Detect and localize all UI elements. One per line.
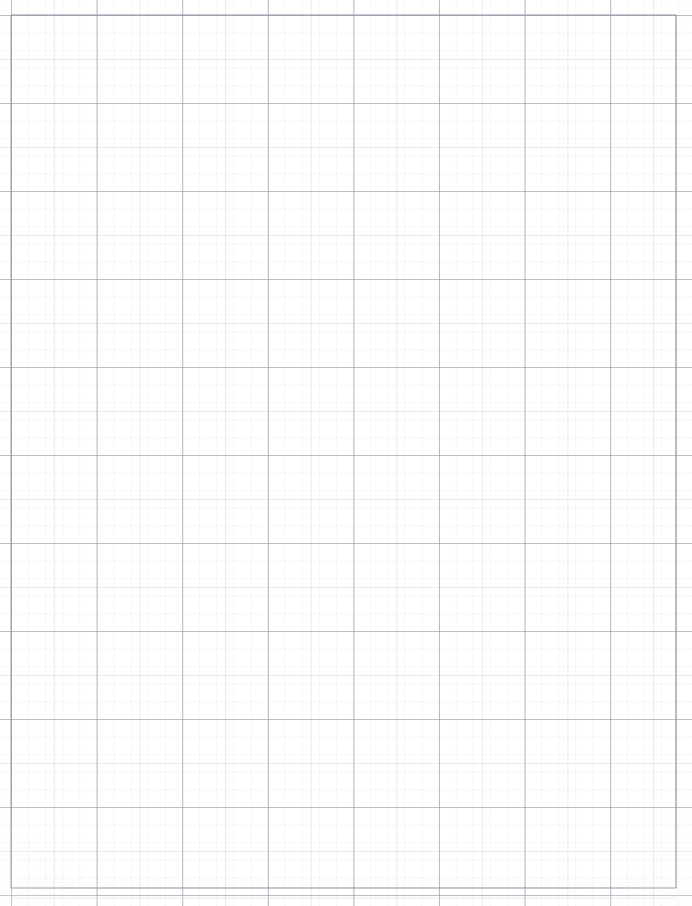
paper-vignette [0, 0, 692, 906]
graph-paper-page [0, 0, 692, 906]
medium-grid-layer [0, 0, 692, 906]
grid-bleed-layer [0, 0, 692, 906]
sheet-border-lines [11, 15, 676, 888]
major-grid-layer [0, 0, 692, 906]
minor-grid-layer [0, 0, 692, 906]
scan-noise [0, 0, 692, 906]
